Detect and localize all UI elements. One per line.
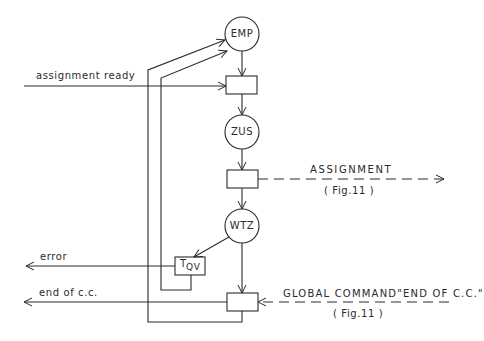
state-wtz-label: WTZ: [225, 221, 259, 231]
arc-wtz-tqv: [194, 237, 229, 257]
end-of-cc-label: end of c.c.: [39, 288, 98, 298]
state-emp-label: EMP: [225, 29, 259, 39]
tqv-subscript: QV: [186, 262, 200, 272]
assignment-ready-label: assignment ready: [36, 71, 135, 81]
transition-tqv-label: TQV: [180, 259, 200, 269]
state-zus-label: ZUS: [225, 127, 259, 137]
transition-2: [227, 170, 258, 188]
transition-3: [227, 293, 258, 311]
assignment-label: ASSIGNMENT: [310, 165, 392, 175]
global-command-ref-label: ( Fig.11 ): [333, 309, 383, 319]
loop-tqv-emp: [161, 51, 227, 290]
transition-1: [226, 76, 257, 94]
assignment-ref-label: ( Fig.11 ): [324, 186, 374, 196]
error-label: error: [40, 252, 67, 262]
loop-t3-emp: [148, 40, 242, 322]
global-command-label: GLOBAL COMMAND"END OF C.C.": [283, 289, 484, 299]
